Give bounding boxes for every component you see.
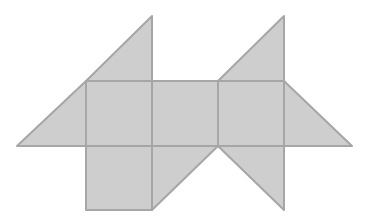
sq-top-right-square [218,81,284,146]
tri-top-right-triangle [218,16,284,81]
net-diagram [0,0,370,224]
sq-top-left-square [86,81,152,146]
sq-top-middle-square [152,81,218,146]
tri-bottom-right-triangle [218,146,284,210]
tri-left-triangle [17,81,86,146]
sq-bottom-left-square [86,146,152,210]
tri-bottom-middle-triangle [152,146,218,210]
tri-top-left-triangle [86,16,152,81]
net-shapes [17,16,352,210]
tri-right-triangle [284,81,352,146]
